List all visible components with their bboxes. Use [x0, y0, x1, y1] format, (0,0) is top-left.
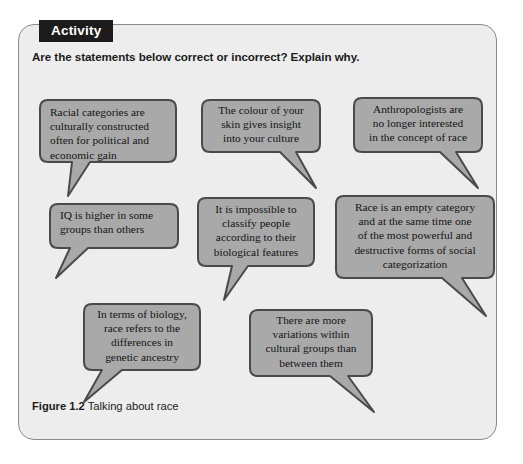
- speech-bubble-anthropologists[interactable]: Anthropologists are no longer interested…: [352, 90, 484, 152]
- figure-caption: Figure 1.2 Talking about race: [32, 400, 179, 412]
- bubble-label: There are more variations within cultura…: [254, 313, 368, 370]
- speech-bubble-more-variations[interactable]: There are more variations within cultura…: [248, 302, 374, 374]
- speech-bubble-impossible-to-classify[interactable]: It is impossible to classify people acco…: [196, 190, 316, 266]
- bubble-label: The colour of your skin gives insight in…: [206, 103, 316, 146]
- activity-intro-text: Are the statements below correct or inco…: [32, 50, 359, 63]
- speech-bubble-colour-of-skin[interactable]: The colour of your skin gives insight in…: [200, 92, 322, 152]
- speech-bubble-iq-higher[interactable]: IQ is higher in some groups than others: [48, 196, 180, 242]
- speech-bubble-race-empty-category[interactable]: Race is an empty category and at the sam…: [334, 188, 496, 278]
- bubble-label: Race is an empty category and at the sam…: [340, 200, 490, 271]
- bubble-label: IQ is higher in some groups than others: [60, 208, 176, 236]
- figure-label: Figure 1.2: [32, 400, 85, 412]
- speech-bubble-racial-categories[interactable]: Racial categories are culturally constru…: [38, 92, 178, 164]
- bubble-label: Anthropologists are no longer interested…: [358, 102, 478, 145]
- figure-caption-text: Talking about race: [88, 400, 179, 412]
- activity-badge: Activity: [39, 20, 113, 42]
- bubble-label: It is impossible to classify people acco…: [201, 202, 311, 259]
- bubble-label: Racial categories are culturally constru…: [50, 105, 172, 162]
- bubble-label: In terms of biology, race refers to the …: [87, 307, 197, 364]
- speech-bubble-terms-of-biology[interactable]: In terms of biology, race refers to the …: [82, 296, 202, 368]
